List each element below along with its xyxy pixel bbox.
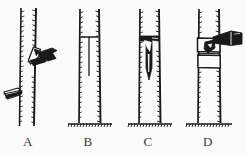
flap-highlight-c bbox=[152, 38, 158, 39]
ground-hatch-c bbox=[128, 124, 171, 127]
ground-hatch-b bbox=[68, 124, 111, 127]
wrap-band-lower-d bbox=[198, 55, 221, 68]
trunk-left-edge-c bbox=[139, 9, 140, 123]
wrap-band-seam-d bbox=[198, 53, 220, 54]
ground-hatch-d bbox=[186, 124, 229, 127]
figure-background bbox=[0, 0, 246, 155]
knife-lower-pivot-a bbox=[18, 90, 23, 94]
knife-handle-line-d bbox=[234, 34, 240, 35]
panel-caption-b: B bbox=[76, 134, 100, 150]
diagram-canvas bbox=[0, 0, 246, 155]
figure-container: A B C D bbox=[0, 0, 246, 155]
panel-caption-c: C bbox=[136, 134, 160, 150]
panel-caption-d: D bbox=[196, 134, 220, 150]
trunk-left-edge-b bbox=[79, 9, 80, 123]
panel-caption-a: A bbox=[16, 134, 40, 150]
